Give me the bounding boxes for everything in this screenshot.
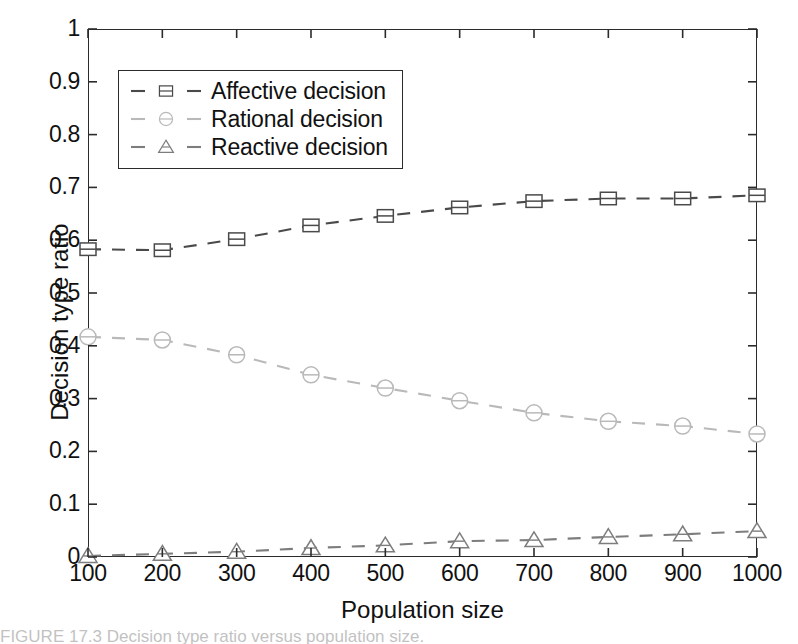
figure-caption: FIGURE 17.3 Decision type ratio versus p… (0, 628, 460, 644)
legend-label: Rational decision (211, 107, 383, 131)
x-tick-label: 300 (218, 562, 255, 585)
legend-key-circle-icon (129, 108, 203, 130)
chart-legend: Affective decisionRational decisionReact… (118, 70, 403, 169)
legend-item-affective-decision: Affective decision (129, 77, 388, 105)
legend-label: Affective decision (211, 79, 386, 103)
series-reactive-decision (79, 523, 766, 563)
y-axis-title: Decision type ratio (42, 0, 78, 644)
x-tick-label: 900 (664, 562, 701, 585)
x-tick-label: 800 (590, 562, 627, 585)
legend-item-reactive-decision: Reactive decision (129, 133, 388, 161)
legend-key-triangle-icon (129, 136, 203, 158)
x-tick-label: 400 (292, 562, 329, 585)
series-affective-decision (80, 189, 765, 256)
legend-key-square-icon (129, 80, 203, 102)
series-rational-decision (80, 329, 765, 442)
x-tick-label: 100 (69, 562, 106, 585)
x-tick-label: 200 (144, 562, 181, 585)
x-tick-label: 700 (515, 562, 552, 585)
x-tick-label: 1000 (732, 562, 782, 585)
legend-item-rational-decision: Rational decision (129, 105, 388, 133)
y-axis-title-container: Decision type ratio (6, 0, 42, 644)
x-axis-title: Population size (88, 597, 757, 623)
x-tick-label: 500 (367, 562, 404, 585)
x-tick-label: 600 (441, 562, 478, 585)
legend-label: Reactive decision (211, 135, 388, 159)
chart-figure: 00.10.20.30.40.50.60.70.80.91 Decision t… (0, 0, 798, 644)
